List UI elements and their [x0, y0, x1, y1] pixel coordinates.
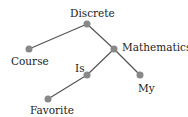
edge-mathematics-is	[87, 49, 114, 75]
node-discrete	[84, 21, 91, 28]
node-mathematics	[111, 46, 118, 53]
edge-is-favorite	[48, 75, 87, 99]
node-course	[26, 46, 33, 53]
edge-discrete-course	[29, 24, 87, 49]
label-discrete: Discrete	[70, 8, 115, 19]
label-favorite: Favorite	[30, 105, 74, 116]
label-mathematics: Mathematics	[122, 42, 188, 53]
label-is: Is	[75, 63, 85, 74]
node-is	[84, 72, 91, 79]
node-my	[137, 72, 144, 79]
label-my: My	[138, 83, 155, 94]
label-course: Course	[11, 56, 49, 67]
edge-discrete-mathematics	[87, 24, 114, 49]
node-favorite	[45, 96, 52, 103]
